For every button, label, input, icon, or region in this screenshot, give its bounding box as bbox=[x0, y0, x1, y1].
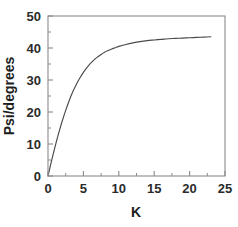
x-tick-label: 20 bbox=[182, 181, 196, 196]
chart-figure: 051015202501020304050 K Psi/degrees bbox=[0, 0, 238, 227]
y-tick-label: 50 bbox=[27, 9, 41, 24]
y-tick-label: 0 bbox=[34, 169, 41, 184]
y-tick-label: 10 bbox=[27, 137, 41, 152]
x-tick-label: 0 bbox=[44, 181, 51, 196]
x-tick-label: 10 bbox=[112, 181, 126, 196]
x-tick-label: 25 bbox=[218, 181, 232, 196]
y-tick-label: 40 bbox=[27, 41, 41, 56]
x-axis-title: K bbox=[131, 204, 141, 220]
y-axis-title: Psi/degrees bbox=[1, 56, 17, 135]
x-tick-label: 5 bbox=[80, 181, 87, 196]
y-tick-label: 30 bbox=[27, 73, 41, 88]
x-tick-label: 15 bbox=[147, 181, 161, 196]
y-tick-label: 20 bbox=[27, 105, 41, 120]
